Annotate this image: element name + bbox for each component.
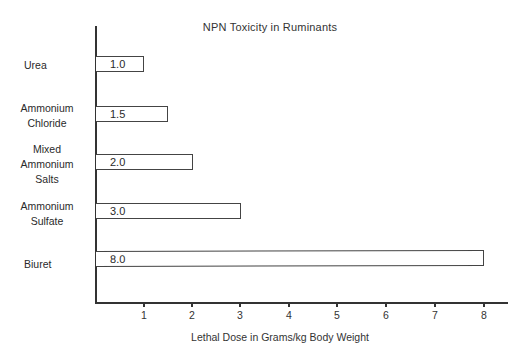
x-tick-label-6: 6	[376, 309, 396, 321]
x-tick-5	[336, 302, 338, 307]
bar-mixed-ammonium-salts: 2.0	[96, 154, 193, 170]
x-tick-4	[288, 302, 290, 307]
bar-urea: 1.0	[96, 56, 144, 72]
chart-title: NPN Toxicity in Ruminants	[190, 21, 350, 33]
bar-value-mixed-ammonium-salts: 2.0	[110, 156, 125, 168]
x-tick-label-7: 7	[425, 309, 445, 321]
x-tick-8	[483, 302, 485, 307]
category-label-line: Sulfate	[4, 214, 90, 229]
x-tick-label-3: 3	[230, 309, 250, 321]
x-tick-3	[239, 302, 241, 307]
bar-ammonium-sulfate: 3.0	[96, 203, 241, 219]
x-tick-label-8: 8	[474, 309, 494, 321]
category-label-line: Mixed	[4, 142, 90, 157]
category-label-mixed-ammonium-salts: Mixed Ammonium Salts	[4, 142, 90, 187]
bar-ammonium-chloride: 1.5	[96, 106, 168, 122]
bar-value-ammonium-sulfate: 3.0	[110, 205, 125, 217]
x-tick-2	[191, 302, 193, 307]
x-axis-line	[95, 302, 508, 304]
x-tick-label-1: 1	[134, 309, 154, 321]
category-label-line: Salts	[4, 172, 90, 187]
category-label-line: Ammonium	[4, 101, 90, 116]
x-axis-label: Lethal Dose in Grams/kg Body Weight	[120, 331, 440, 343]
x-tick-7	[434, 302, 436, 307]
bar-value-biuret: 8.0	[110, 253, 125, 265]
bar-value-urea: 1.0	[110, 58, 125, 70]
category-label-ammonium-sulfate: Ammonium Sulfate	[4, 199, 90, 229]
category-label-line: Ammonium	[4, 157, 90, 172]
x-tick-1	[143, 302, 145, 307]
category-label-line: Ammonium	[4, 199, 90, 214]
bar-biuret: 8.0	[96, 250, 484, 267]
x-tick-label-4: 4	[279, 309, 299, 321]
category-label-line: Chloride	[4, 116, 90, 131]
bar-value-ammonium-chloride: 1.5	[110, 108, 125, 120]
x-tick-6	[385, 302, 387, 307]
category-label-ammonium-chloride: Ammonium Chloride	[4, 101, 90, 131]
x-tick-label-5: 5	[327, 309, 347, 321]
x-tick-label-2: 2	[182, 309, 202, 321]
